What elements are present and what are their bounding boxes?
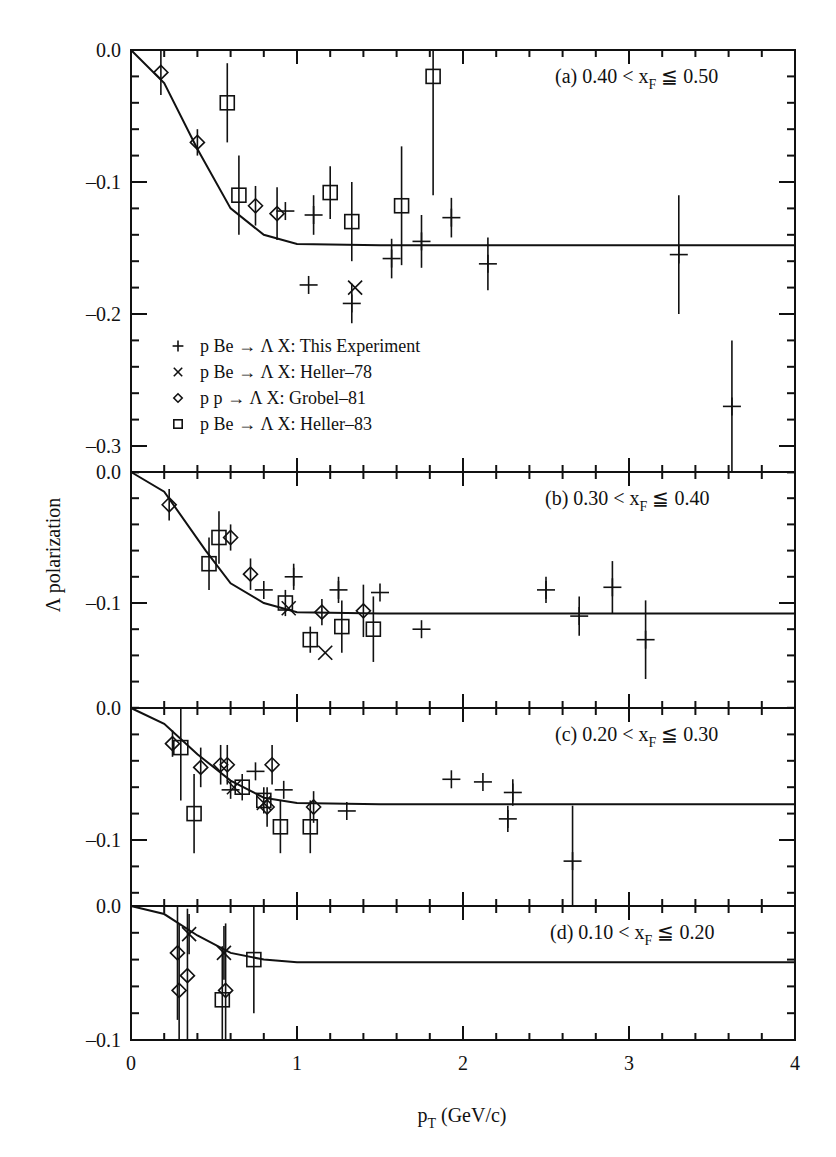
- panel-d: 0.0–0.1(d) 0.10 < xF ≦ 0.20: [85, 895, 795, 1051]
- y-axis-title: Λ polarization: [42, 498, 65, 613]
- y-tick-label: –0.1: [85, 829, 121, 851]
- diamond-marker-icon: [174, 394, 182, 402]
- legend: p Be → Λ X: This Experimentp Be → Λ X: H…: [173, 336, 421, 434]
- panel-frame: [131, 50, 795, 472]
- x-tick-label: 2: [458, 1052, 468, 1074]
- x-axis-title: pT (GeV/c): [417, 1104, 506, 1131]
- x-tick-label: 1: [292, 1052, 302, 1074]
- legend-label: p p → Λ X: Grobel–81: [200, 388, 366, 408]
- legend-label: p Be → Λ X: Heller–83: [200, 414, 372, 434]
- x-tick-label: 0: [126, 1052, 136, 1074]
- figure-canvas: 0.0–0.1–0.2–0.3(a) 0.40 < xF ≦ 0.500.0–0…: [0, 0, 836, 1157]
- x-tick-label: 4: [790, 1052, 800, 1074]
- panel-c: 0.0–0.1(c) 0.20 < xF ≦ 0.30: [85, 697, 795, 906]
- y-tick-label: –0.1: [85, 592, 121, 614]
- panel-label: (a) 0.40 < xF ≦ 0.50: [555, 65, 718, 92]
- y-tick-label: –0.1: [85, 1029, 121, 1051]
- polarization-figure: 0.0–0.1–0.2–0.3(a) 0.40 < xF ≦ 0.500.0–0…: [0, 0, 836, 1157]
- y-tick-label: –0.3: [85, 435, 121, 457]
- y-tick-label: –0.2: [85, 303, 121, 325]
- panel-b: 0.0–0.1(b) 0.30 < xF ≦ 0.40: [85, 461, 795, 708]
- y-tick-label: 0.0: [96, 697, 121, 719]
- panel-label: (b) 0.30 < xF ≦ 0.40: [545, 487, 709, 514]
- x-tick-label: 3: [624, 1052, 634, 1074]
- square-marker-icon: [174, 420, 182, 428]
- panel-label: (c) 0.20 < xF ≦ 0.30: [555, 723, 718, 750]
- legend-label: p Be → Λ X: This Experiment: [200, 336, 420, 356]
- y-tick-label: –0.1: [85, 171, 121, 193]
- y-tick-label: 0.0: [96, 461, 121, 483]
- legend-label: p Be → Λ X: Heller–78: [200, 362, 372, 382]
- y-tick-label: 0.0: [96, 39, 121, 61]
- y-tick-label: 0.0: [96, 895, 121, 917]
- panel-label: (d) 0.10 < xF ≦ 0.20: [550, 921, 714, 948]
- panel-a: 0.0–0.1–0.2–0.3(a) 0.40 < xF ≦ 0.50: [85, 39, 795, 472]
